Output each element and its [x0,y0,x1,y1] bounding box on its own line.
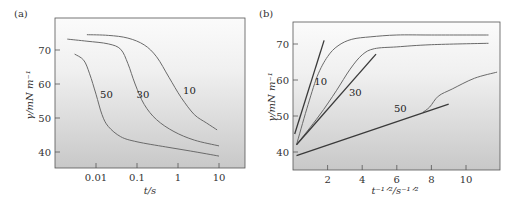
figure-canvas: (a) 405060700.010.1110 103050 t/s γ/mN m… [0,0,519,206]
panel-a-y-axis-label: γ/mN m⁻¹ [24,70,35,120]
panel-a-chart: (a) 405060700.010.1110 103050 t/s γ/mN m… [14,8,245,196]
y-tick-label: 40 [276,147,289,158]
x-tick-label: 10 [460,174,473,185]
curve-label-30: 30 [349,87,362,98]
panel-b-label: (b) [259,8,273,19]
y-tick-label: 70 [276,39,289,50]
x-tick-label: 6 [394,174,400,185]
curve-label-50: 50 [394,103,407,114]
x-tick-label: 0.1 [129,172,145,183]
y-tick-label: 50 [276,111,289,122]
panel-a-label: (a) [14,8,28,19]
y-tick-label: 60 [38,79,51,90]
y-tick-label: 70 [38,45,51,56]
curve-label-10: 10 [314,76,327,87]
x-tick-label: 0.01 [85,172,107,183]
x-tick-label: 2 [324,174,330,185]
y-tick-label: 60 [276,75,289,86]
x-tick-label: 10 [213,172,226,183]
x-tick-label: 4 [359,174,365,185]
y-tick-label: 40 [38,147,51,158]
curve-label-50: 50 [100,89,113,100]
panel-b-chart: (b) 40506070246810 103050 t⁻¹ᐟ²/s⁻¹ᐟ² γ/… [259,8,500,196]
panel-b-x-axis-label: t⁻¹ᐟ²/s⁻¹ᐟ² [371,185,418,196]
x-tick-label: 1 [175,172,181,183]
panel-a-x-axis-label: t/s [144,185,157,196]
curve-label-10: 10 [183,85,196,96]
panel-b-y-axis-label: γ/mN m⁻¹ [266,72,277,122]
y-tick-label: 50 [38,113,51,124]
curve-label-30: 30 [137,89,150,100]
x-tick-label: 8 [428,174,434,185]
